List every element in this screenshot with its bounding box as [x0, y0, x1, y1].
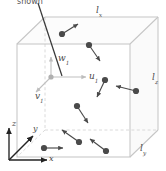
label-u1: u1	[89, 72, 98, 83]
particle-dot	[86, 42, 92, 48]
label-w1: w1	[58, 54, 69, 65]
particle-dot	[74, 103, 80, 109]
figure-container: shown lx lz ly w1 u1 v1 z y x	[0, 0, 166, 171]
particle-group	[86, 42, 100, 61]
label-z-axis: z	[12, 120, 16, 128]
particle-dot	[133, 88, 139, 94]
particle-dot	[41, 145, 47, 151]
particle-dot	[103, 148, 109, 154]
label-x-axis: x	[49, 155, 54, 163]
label-ly: ly	[140, 144, 146, 155]
particle-dot	[59, 31, 65, 37]
v1-vector	[36, 77, 51, 92]
particle-dot	[76, 139, 82, 145]
particle-group	[62, 130, 82, 145]
particle-group	[74, 103, 88, 123]
label-lx: lx	[96, 6, 102, 17]
coordinate-axis-triad	[9, 128, 47, 160]
particle-group	[41, 145, 63, 151]
particle-dot	[102, 77, 108, 83]
particle-velocity-arrow	[62, 130, 79, 142]
label-y-axis: y	[33, 125, 38, 133]
label-v1: v1	[35, 92, 44, 103]
y-axis	[9, 136, 33, 160]
label-lz: lz	[152, 73, 158, 84]
caption-fragment: shown	[17, 0, 43, 6]
particle-group	[97, 77, 108, 97]
reference-particle	[48, 74, 53, 79]
particle-group	[90, 139, 109, 154]
